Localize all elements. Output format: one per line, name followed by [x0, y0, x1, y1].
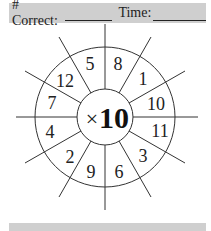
footer-bar — [9, 223, 206, 231]
multiply-operator: × — [86, 106, 98, 131]
multiplier-value: 10 — [99, 101, 129, 134]
wheel-number: 9 — [87, 162, 96, 182]
wheel-number: 10 — [147, 94, 165, 114]
wheel-number: 7 — [48, 93, 57, 113]
wheel-number: 5 — [86, 54, 95, 74]
wheel-number: 12 — [56, 71, 74, 91]
multiplication-wheel: 8 1 10 11 3 6 9 2 4 7 12 5 × 10 — [0, 0, 211, 231]
wheel-number: 6 — [115, 162, 124, 182]
wheel-number: 8 — [114, 54, 123, 74]
wheel-number: 4 — [46, 122, 55, 142]
wheel-number: 1 — [139, 69, 148, 89]
wheel-number: 3 — [139, 146, 148, 166]
wheel-number: 2 — [66, 147, 75, 167]
wheel-number: 11 — [151, 121, 168, 141]
